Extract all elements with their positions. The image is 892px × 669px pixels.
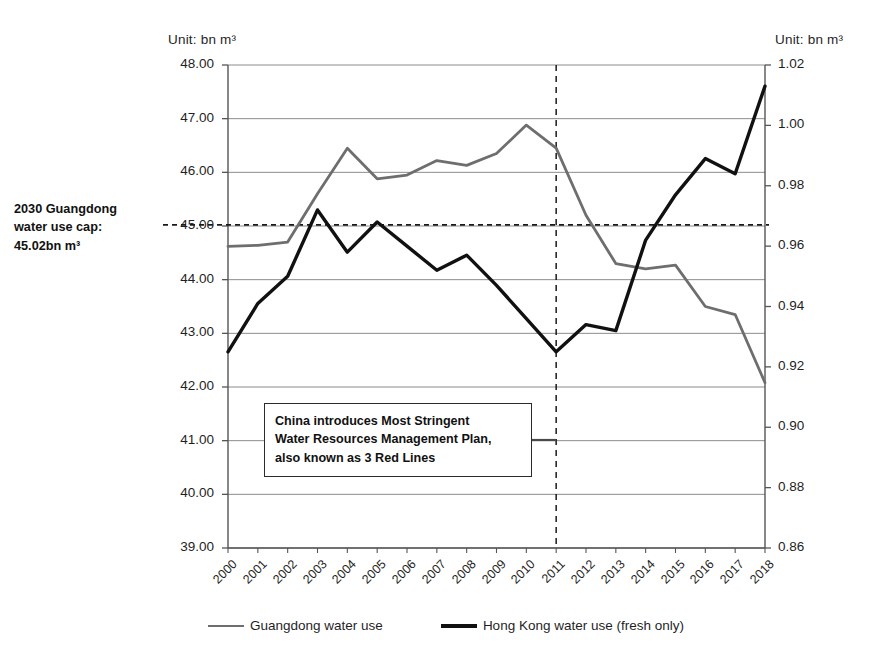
legend-label-hongkong: Hong Kong water use (fresh only): [483, 618, 684, 633]
policy-callout-line-3: also known as 3 Red Lines: [275, 449, 522, 467]
left-axis-tick-label: 44.00: [156, 271, 214, 286]
left-axis-tick-label: 41.00: [156, 432, 214, 447]
left-axis-tick-label: 42.00: [156, 378, 214, 393]
chart-legend: Guangdong water use Hong Kong water use …: [0, 618, 892, 633]
left-axis-tick-label: 48.00: [156, 56, 214, 71]
legend-item-hongkong: Hong Kong water use (fresh only): [441, 618, 684, 633]
axis-ticks: [222, 65, 771, 553]
legend-line-icon-hongkong: [441, 624, 477, 628]
series-lines: [228, 86, 765, 383]
policy-callout-line-2: Water Resources Management Plan,: [275, 430, 522, 448]
legend-line-icon-guangdong: [208, 625, 244, 627]
left-axis-tick-label: 43.00: [156, 324, 214, 339]
policy-callout-line-1: China introduces Most Stringent: [275, 412, 522, 430]
right-axis-tick-label: 0.96: [778, 237, 836, 252]
left-axis-tick-label: 47.00: [156, 110, 214, 125]
left-axis-tick-label: 40.00: [156, 485, 214, 500]
water-use-chart: Unit: bn m³ Unit: bn m³ 2030 Guangdong w…: [0, 0, 892, 669]
legend-item-guangdong: Guangdong water use: [208, 618, 383, 633]
right-axis-tick-label: 0.90: [778, 418, 836, 433]
right-axis-tick-label: 0.98: [778, 177, 836, 192]
right-axis-tick-label: 1.00: [778, 116, 836, 131]
right-axis-tick-label: 0.86: [778, 539, 836, 554]
policy-callout-box: China introduces Most Stringent Water Re…: [264, 403, 532, 477]
right-axis-tick-label: 1.02: [778, 56, 836, 71]
right-axis-tick-label: 0.94: [778, 298, 836, 313]
left-axis-tick-label: 46.00: [156, 163, 214, 178]
left-axis-tick-label: 45.00: [156, 217, 214, 232]
right-axis-tick-label: 0.92: [778, 358, 836, 373]
right-axis-tick-label: 0.88: [778, 479, 836, 494]
left-axis-tick-label: 39.00: [156, 539, 214, 554]
legend-label-guangdong: Guangdong water use: [250, 618, 383, 633]
